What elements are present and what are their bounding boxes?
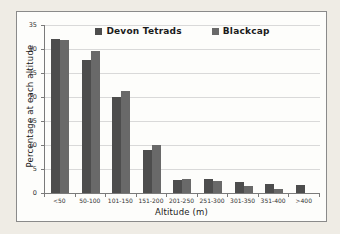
bar-group-351-400 bbox=[259, 25, 290, 193]
bar-group-<50 bbox=[45, 25, 76, 193]
bar-group-50-100 bbox=[76, 25, 107, 193]
bar-group-201-250 bbox=[167, 25, 198, 193]
bar-blackcap-151-200 bbox=[152, 145, 161, 193]
bar-devon-tetrads->400 bbox=[296, 185, 305, 193]
bar-group-301-350 bbox=[228, 25, 259, 193]
bar-devon-tetrads-351-400 bbox=[265, 184, 274, 193]
bar-group-251-300 bbox=[198, 25, 229, 193]
legend-item-devon-tetrads: Devon Tetrads bbox=[95, 26, 181, 36]
legend-item-blackcap: Blackcap bbox=[212, 26, 270, 36]
bar-group-101-150 bbox=[106, 25, 137, 193]
x-label->400: >400 bbox=[288, 198, 319, 204]
legend-label-blackcap: Blackcap bbox=[223, 26, 270, 36]
x-axis-tick-labels: <5050-100101-150151-200201-250251-300301… bbox=[44, 198, 319, 206]
bar-blackcap-351-400 bbox=[274, 189, 283, 193]
bar-devon-tetrads-151-200 bbox=[143, 150, 152, 193]
x-label-201-250: 201-250 bbox=[166, 198, 197, 204]
bar-blackcap-<50 bbox=[60, 40, 69, 193]
chart-frame: Percentage at each altitude 051015202530… bbox=[16, 11, 327, 222]
y-axis-tick-labels: 05101520253035 bbox=[17, 25, 39, 193]
bar-group-151-200 bbox=[137, 25, 168, 193]
x-label-101-150: 101-150 bbox=[105, 198, 136, 204]
plot-area: Devon Tetrads Blackcap bbox=[44, 25, 320, 194]
screenshot-root: { "window": { "background": "#efece5", "… bbox=[0, 0, 340, 234]
bar-devon-tetrads-50-100 bbox=[82, 60, 91, 193]
legend-label-devon-tetrads: Devon Tetrads bbox=[106, 26, 181, 36]
x-axis-title: Altitude (m) bbox=[44, 207, 319, 217]
legend: Devon Tetrads Blackcap bbox=[45, 26, 320, 36]
bar-devon-tetrads-201-250 bbox=[173, 180, 182, 193]
bar-blackcap-201-250 bbox=[182, 179, 191, 193]
bar-blackcap-50-100 bbox=[91, 51, 100, 193]
x-label-301-350: 301-350 bbox=[227, 198, 258, 204]
x-label-151-200: 151-200 bbox=[136, 198, 167, 204]
bar-devon-tetrads-<50 bbox=[51, 39, 60, 193]
x-label-351-400: 351-400 bbox=[258, 198, 289, 204]
bar-devon-tetrads-301-350 bbox=[235, 182, 244, 193]
bar-blackcap-251-300 bbox=[213, 181, 222, 193]
legend-swatch-devon-tetrads-icon bbox=[95, 28, 102, 35]
bar-blackcap-101-150 bbox=[121, 91, 130, 193]
x-label-50-100: 50-100 bbox=[75, 198, 106, 204]
x-label-<50: <50 bbox=[44, 198, 75, 204]
x-label-251-300: 251-300 bbox=[197, 198, 228, 204]
bar-devon-tetrads-251-300 bbox=[204, 179, 213, 193]
bar-blackcap-301-350 bbox=[244, 186, 253, 193]
legend-swatch-blackcap-icon bbox=[212, 28, 219, 35]
bar-devon-tetrads-101-150 bbox=[112, 97, 121, 193]
bar-group->400 bbox=[289, 25, 320, 193]
